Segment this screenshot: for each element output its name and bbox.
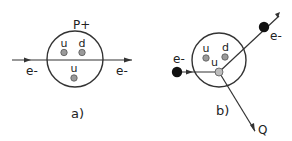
quark-u2: [71, 75, 77, 81]
quark-d: [222, 54, 228, 60]
proton-circle: [192, 33, 246, 87]
quark-label-u1: u: [61, 37, 68, 50]
electron-out-label: e-: [270, 29, 282, 43]
quark-u1: [61, 49, 67, 55]
panel-a: P+ u d u e- e- a): [12, 18, 132, 121]
quark-label-d: d: [79, 37, 86, 50]
recoil-label: Q: [258, 123, 267, 137]
electron-out-label: e-: [116, 64, 128, 78]
electron-in-label: e-: [173, 52, 185, 66]
arrow-in-icon: [24, 58, 31, 63]
proton-label: P+: [73, 18, 90, 32]
caption-a: a): [71, 106, 84, 121]
caption-b: b): [216, 103, 229, 118]
quark-label-u2: u: [211, 56, 218, 69]
arrow-in-icon: [186, 70, 193, 75]
electron-in-dot: [172, 67, 182, 77]
quark-u1: [203, 55, 209, 61]
quark-d: [79, 49, 85, 55]
diagram-canvas: P+ u d u e- e- a) u d u e- e- Q b): [0, 0, 292, 141]
electron-out-dot: [259, 22, 269, 32]
struck-quark-u: [215, 68, 223, 76]
quark-label-d: d: [222, 41, 229, 54]
panel-b: u d u e- e- Q b): [172, 12, 282, 137]
arrow-out-icon: [124, 58, 132, 63]
arrow-out-icon: [275, 12, 280, 18]
electron-in-label: e-: [26, 64, 38, 78]
quark-label-u1: u: [203, 42, 210, 55]
quark-label-u2: u: [71, 62, 78, 75]
